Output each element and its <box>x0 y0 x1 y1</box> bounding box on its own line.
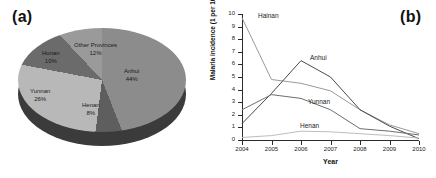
pie-slice-name-anhui: Anhui <box>124 68 139 74</box>
pie-chart-graphic: Anhui 44% Henan 8% Yunnan 26% Hunan 10% … <box>18 28 186 146</box>
pie-slice-pct-other-provinces: 12% <box>74 50 117 58</box>
pie-slice-pct-hunan: 10% <box>42 58 60 66</box>
line-series-group <box>200 0 436 178</box>
series-line-yunnan <box>242 95 419 135</box>
pie-slice-pct-henan: 8% <box>82 110 100 118</box>
series-label-hainan: Hainan <box>258 12 279 19</box>
pie-slice-label-anhui: Anhui 44% <box>124 68 139 83</box>
pie-slice-name-henan: Henan <box>82 102 100 108</box>
pie-slice-name-other-provinces: Other Provinces <box>74 42 117 48</box>
series-label-yunnan: Yunnan <box>308 98 330 105</box>
pie-slice-label-yunnan: Yunnan 26% <box>30 88 50 103</box>
figure-container: (a) Anhui 44% Henan 8% Yunnan 26% Hunan … <box>0 0 436 178</box>
panel-b-line-chart: (b) Malaria incidence (1 per 10,000) Yea… <box>200 0 436 178</box>
series-line-hainan <box>242 18 419 134</box>
pie-slice-name-yunnan: Yunnan <box>30 88 50 94</box>
series-label-anhui: Anhui <box>310 54 327 61</box>
series-label-henan: Henan <box>300 122 319 129</box>
pie-slice-pct-yunnan: 26% <box>30 96 50 104</box>
pie-slice-label-henan: Henan 8% <box>82 102 100 117</box>
pie-slice-pct-anhui: 44% <box>124 76 139 84</box>
pie-slice-label-other-provinces: Other Provinces 12% <box>74 42 117 57</box>
panel-a-pie-chart: (a) Anhui 44% Henan 8% Yunnan 26% Hunan … <box>0 0 200 178</box>
pie-slice-label-hunan: Hunan 10% <box>42 50 60 65</box>
pie-slice-name-hunan: Hunan <box>42 50 60 56</box>
series-line-henan <box>242 131 419 138</box>
panel-a-label: (a) <box>12 8 32 26</box>
